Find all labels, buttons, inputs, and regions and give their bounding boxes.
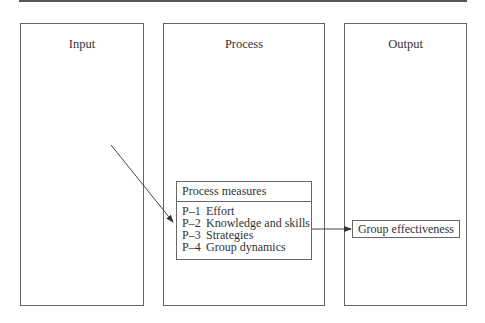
input-to-process-arrow [111,145,173,222]
connector-arrows [0,0,485,323]
